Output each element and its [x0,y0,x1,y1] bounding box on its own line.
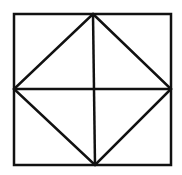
geometric-figure [0,0,182,175]
